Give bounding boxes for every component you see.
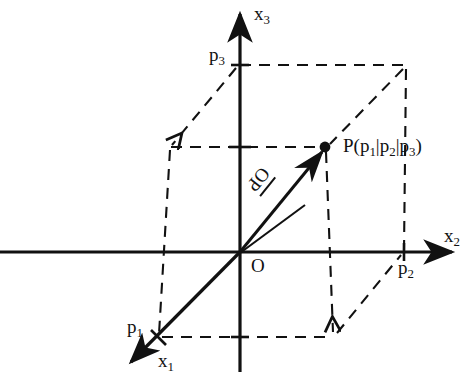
point-label-sep2: |p (396, 135, 409, 156)
point-label-sep1: |p (376, 135, 389, 156)
point-label-p: P(p1|p2|p3) (343, 136, 422, 159)
axis-label-x1-sub: 1 (168, 359, 174, 374)
axis-label-x3-base: x (254, 3, 264, 24)
axis-label-x1-base: x (158, 350, 168, 371)
position-vector-op (240, 152, 322, 253)
box-edge-left-vertical (159, 150, 170, 334)
coordinate-system-figure: x3 x2 x1 p3 p2 p1 O P(p1|p2|p3) OP (0, 0, 476, 378)
point-label-open: P(p (343, 135, 369, 156)
diagram-canvas (0, 0, 476, 378)
tick-label-p2-base: p (398, 257, 408, 278)
point-label-close: ) (415, 135, 421, 156)
vector-op-shaft (240, 152, 322, 252)
box-edge-top-right-receding (330, 69, 403, 144)
axis-x1-line (131, 252, 240, 362)
axis-label-x2-sub: 2 (454, 234, 460, 249)
tick-label-p3-base: p (209, 44, 219, 65)
box-edge-bottom-right-receding (337, 255, 401, 333)
box-edge-top-left-receding (172, 68, 236, 145)
tick-label-p2: p2 (398, 258, 414, 281)
axis-label-x2-base: x (444, 225, 454, 246)
axis-label-x1: x1 (158, 351, 174, 374)
tick-label-p3: p3 (209, 45, 225, 68)
origin-label: O (251, 256, 265, 275)
tick-label-p2-sub: 2 (408, 266, 414, 281)
box-edge-front-vertical (326, 152, 333, 332)
tick-label-p1-sub: 1 (137, 325, 143, 340)
box-edge-right-vertical (404, 69, 406, 250)
point-p-marker (320, 142, 331, 153)
tick-label-p1: p1 (127, 317, 143, 340)
axis-label-x3: x3 (254, 4, 270, 27)
axis-label-x3-sub: 3 (264, 12, 270, 27)
axis-label-x2: x2 (444, 226, 460, 249)
tick-label-p1-base: p (127, 316, 137, 337)
tick-label-p3-sub: 3 (219, 53, 225, 68)
